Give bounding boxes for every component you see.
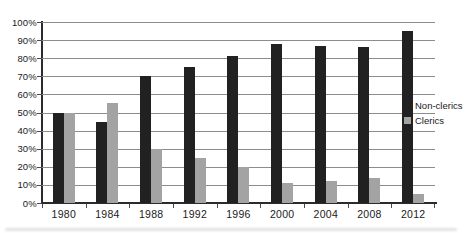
x-category-label: 2004 <box>304 208 348 220</box>
x-category-label: 1984 <box>86 208 130 220</box>
bar-clerics-2012 <box>413 194 424 203</box>
bar-non-clerics-2004 <box>315 46 326 203</box>
x-category-label: 2012 <box>391 208 435 220</box>
legend-item-clerics: Clerics <box>404 115 463 126</box>
x-category-label: 1988 <box>129 208 173 220</box>
bar-non-clerics-1992 <box>184 67 195 203</box>
bar-clerics-1988 <box>151 149 162 203</box>
y-tick-label: 80% <box>0 53 37 64</box>
x-category-label: 2000 <box>260 208 304 220</box>
y-tick-label: 100% <box>0 17 37 28</box>
y-tick-label: 20% <box>0 161 37 172</box>
y-tick-label: 30% <box>0 143 37 154</box>
scan-artifact-shadow <box>5 228 457 231</box>
bar-non-clerics-2000 <box>271 44 282 203</box>
bar-chart: 0%10%20%30%40%50%60%70%80%90%100% 198019… <box>0 0 469 233</box>
y-tick-label: 0% <box>0 198 37 209</box>
bar-group-2008 <box>348 22 392 203</box>
y-tick-label: 40% <box>0 125 37 136</box>
legend: Non-clerics Clerics <box>404 100 463 130</box>
bar-clerics-1984 <box>107 103 118 203</box>
bar-group-2004 <box>304 22 348 203</box>
y-tick-label: 50% <box>0 107 37 118</box>
legend-label-clerics: Clerics <box>415 115 444 126</box>
bar-clerics-2004 <box>326 181 337 203</box>
bar-clerics-2000 <box>282 183 293 203</box>
y-tick-label: 90% <box>0 35 37 46</box>
non-clerics-swatch-icon <box>404 102 411 109</box>
bar-group-1996 <box>217 22 261 203</box>
clerics-swatch-icon <box>404 117 411 124</box>
bar-non-clerics-1984 <box>96 122 107 203</box>
bar-group-2000 <box>260 22 304 203</box>
plot-area <box>42 22 435 203</box>
bar-non-clerics-1996 <box>227 56 238 203</box>
x-category-label: 1996 <box>217 208 261 220</box>
x-category-label: 1980 <box>42 208 86 220</box>
bar-group-1984 <box>86 22 130 203</box>
legend-label-non-clerics: Non-clerics <box>415 100 463 111</box>
bar-clerics-2008 <box>369 178 380 203</box>
bar-non-clerics-1980 <box>53 113 64 204</box>
bar-non-clerics-2008 <box>358 47 369 203</box>
y-tick-label: 70% <box>0 71 37 82</box>
bar-group-1980 <box>42 22 86 203</box>
bar-clerics-1992 <box>195 158 206 203</box>
y-tick-label: 10% <box>0 179 37 190</box>
bar-group-1992 <box>173 22 217 203</box>
y-tick-label: 60% <box>0 89 37 100</box>
bar-group-1988 <box>129 22 173 203</box>
legend-item-non-clerics: Non-clerics <box>404 100 463 111</box>
x-axis-labels: 198019841988199219962000200420082012 <box>42 208 435 222</box>
x-category-label: 2008 <box>348 208 392 220</box>
bar-clerics-1980 <box>64 113 75 204</box>
bar-clerics-1996 <box>238 167 249 203</box>
x-category-label: 1992 <box>173 208 217 220</box>
y-axis-labels: 0%10%20%30%40%50%60%70%80%90%100% <box>0 22 37 203</box>
bar-non-clerics-1988 <box>140 76 151 203</box>
